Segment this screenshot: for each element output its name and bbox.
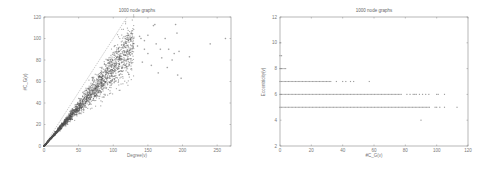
chart-title: 1000 node graphs [119,8,156,13]
y-tick-label: 10 [272,40,278,45]
x-tick-label: 200 [179,148,187,153]
y-tick-label: 100 [33,36,41,41]
chart-title: 1000 node graphs [356,8,393,13]
x-tick-label: 40 [340,148,346,153]
chart-degree-vs-cg: 1000 node graphs 05010015020025002040608… [0,0,248,169]
axis-ticks: 050100150200250020406080100120 [33,15,231,154]
x-tick-label: 100 [110,148,118,153]
reference-line-y-equals-x [44,17,127,146]
axis-ticks: 02040608010012024681012 [272,15,472,154]
scatter-plot-right: 1000 node graphs 02040608010012024681012… [248,0,496,169]
x-tick-label: 0 [279,148,282,153]
x-axis-label: Degree(v) [127,153,148,158]
data-points [43,14,226,146]
x-tick-label: 0 [43,148,46,153]
x-tick-label: 20 [309,148,315,153]
y-tick-label: 20 [36,122,42,127]
y-tick-label: 40 [36,101,42,106]
x-tick-label: 80 [403,148,409,153]
chart-cg-vs-eccentricity: 1000 node graphs 02040608010012024681012… [248,0,496,169]
y-tick-label: 12 [272,15,278,20]
x-tick-label: 120 [464,148,472,153]
data-points [279,42,457,121]
y-tick-label: 80 [36,58,42,63]
x-axis-label: #C_G(v) [365,153,383,158]
x-tick-label: 250 [213,148,221,153]
y-tick-label: 4 [274,118,277,123]
plot-frame [44,17,231,146]
scatter-plot-left: 1000 node graphs 05010015020025002040608… [0,0,248,169]
y-axis-label: Eccentricity(v) [261,67,266,96]
y-tick-label: 2 [274,144,277,149]
x-tick-label: 100 [433,148,441,153]
y-tick-label: 120 [33,15,41,20]
x-tick-label: 50 [76,148,82,153]
y-tick-label: 0 [38,144,41,149]
y-tick-label: 60 [36,79,42,84]
y-tick-label: 6 [274,92,277,97]
y-axis-label: #C_G(v) [23,73,28,91]
y-tick-label: 8 [274,66,277,71]
